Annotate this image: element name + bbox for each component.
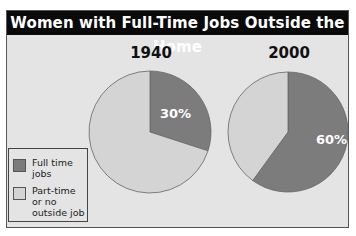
legend-swatch-full-time [13,159,26,172]
legend-swatch-part-time [13,187,26,200]
pie-2000: 60% [228,72,348,192]
legend-label-full-time: Full time jobs [32,157,73,179]
pie-1940: 30% [89,71,211,193]
legend-item-part-time: Part-time or no outside job [13,185,85,218]
legend: Full time jobs Part-time or no outside j… [8,148,88,222]
legend-label-part-time: Part-time or no outside job [32,185,85,218]
legend-item-full-time: Full time jobs [13,157,73,179]
pie-percent-label: 30% [160,106,191,121]
pie-percent-label: 60% [316,132,347,147]
